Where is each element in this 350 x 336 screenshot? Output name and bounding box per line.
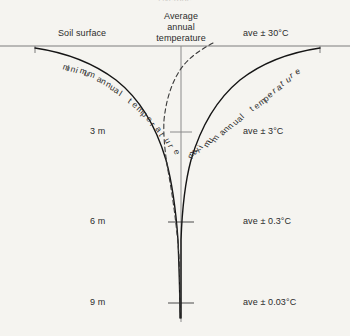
amplitude-label-3m: ave ± 3°C xyxy=(243,126,283,137)
average-label-line-2: annual xyxy=(137,22,225,33)
average-label-line-1: Average xyxy=(137,11,225,22)
depth-label-9m: 9 m xyxy=(90,297,105,308)
depth-label-3m: 3 m xyxy=(90,126,105,137)
surface-amplitude-label: ave ± 30°C xyxy=(243,28,289,39)
soil-temperature-diagram: Average Soil surface Average annual temp… xyxy=(0,0,350,336)
amplitude-label-6m: ave ± 0.3°C xyxy=(243,216,291,227)
average-annual-temperature-curve xyxy=(164,43,213,312)
average-annual-temperature-label: Average annual temperature xyxy=(137,11,225,44)
diagram-canvas xyxy=(0,0,350,336)
depth-label-6m: 6 m xyxy=(90,216,105,227)
soil-surface-label: Soil surface xyxy=(58,28,106,39)
amplitude-label-9m: ave ± 0.03°C xyxy=(243,297,296,308)
average-label-line-3: temperature xyxy=(137,33,225,44)
maximum-annual-temperature-curve xyxy=(181,48,320,318)
